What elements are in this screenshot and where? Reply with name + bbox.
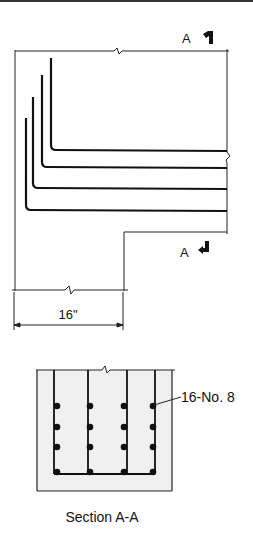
bar-label: 16-No. 8	[181, 389, 235, 405]
section-mark-top-letter: A	[182, 31, 191, 46]
section-arrow-up-icon	[203, 31, 213, 44]
section-a-a	[36, 366, 181, 491]
detail-diagram: A A 16"	[0, 0, 253, 542]
section-arrow-down-icon	[198, 241, 209, 254]
hooked-bars	[26, 58, 227, 211]
section-mark-bottom-letter: A	[180, 245, 189, 260]
elevation-outline	[12, 48, 230, 294]
section-title: Section A-A	[65, 509, 139, 525]
dimension-label: 16"	[58, 307, 77, 322]
